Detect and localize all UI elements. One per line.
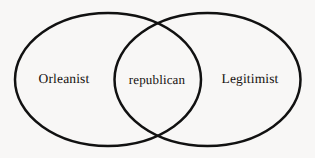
right-set-label: Legitimist	[222, 72, 279, 86]
left-set-label: Orleanist	[39, 72, 90, 86]
intersection-label: republican	[129, 73, 185, 86]
venn-diagram: Orleanist republican Legitimist	[0, 0, 315, 158]
